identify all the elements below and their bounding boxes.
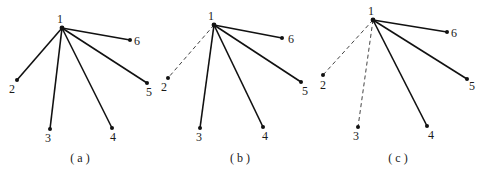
node-2-dot xyxy=(321,73,325,77)
panel-c-caption: ( c ) xyxy=(388,151,407,165)
star-graph-figure: 123456( a ) 123456( b ) 123456( c ) xyxy=(0,0,483,175)
node-1-label: 1 xyxy=(208,9,214,23)
node-3-label: 3 xyxy=(353,129,359,143)
node-3-label: 3 xyxy=(196,130,202,144)
node-4-label: 4 xyxy=(428,128,434,142)
node-6-label: 6 xyxy=(451,26,457,40)
node-6-dot xyxy=(280,36,284,40)
node-5-label: 5 xyxy=(146,85,152,99)
node-2-dot xyxy=(15,78,19,82)
node-1-dot xyxy=(371,18,376,23)
node-2-label: 2 xyxy=(320,78,326,92)
edge-1-6-solid xyxy=(373,20,447,32)
node-1-dot xyxy=(212,23,217,28)
panel-c: 123456( c ) xyxy=(320,4,475,165)
panel-a-caption: ( a ) xyxy=(70,151,89,165)
node-5-label: 5 xyxy=(469,79,475,93)
node-4-label: 4 xyxy=(262,129,268,143)
node-6-dot xyxy=(128,38,132,42)
node-2-label: 2 xyxy=(9,82,15,96)
node-5-label: 5 xyxy=(302,84,308,98)
node-6-label: 6 xyxy=(134,34,140,48)
node-2-label: 2 xyxy=(161,80,167,94)
node-6-label: 6 xyxy=(288,32,294,46)
panel-b-caption: ( b ) xyxy=(230,151,250,165)
edge-1-3-dashed xyxy=(358,20,373,127)
panel-b: 123456( b ) xyxy=(161,9,308,165)
node-1-dot xyxy=(60,26,65,31)
panel-a: 123456( a ) xyxy=(9,12,152,165)
graph-diagram: 123456( a ) 123456( b ) 123456( c ) xyxy=(0,0,483,175)
edge-1-3-solid xyxy=(50,28,62,129)
edge-1-3-solid xyxy=(200,25,214,128)
node-6-dot xyxy=(445,30,449,34)
node-1-label: 1 xyxy=(368,4,374,18)
node-3-label: 3 xyxy=(45,131,51,145)
edge-1-4-solid xyxy=(62,28,112,128)
edge-1-2-solid xyxy=(17,28,62,80)
edge-1-4-solid xyxy=(373,20,427,126)
edge-1-2-dashed xyxy=(323,20,373,75)
node-1-label: 1 xyxy=(57,12,63,26)
node-4-label: 4 xyxy=(110,130,116,144)
